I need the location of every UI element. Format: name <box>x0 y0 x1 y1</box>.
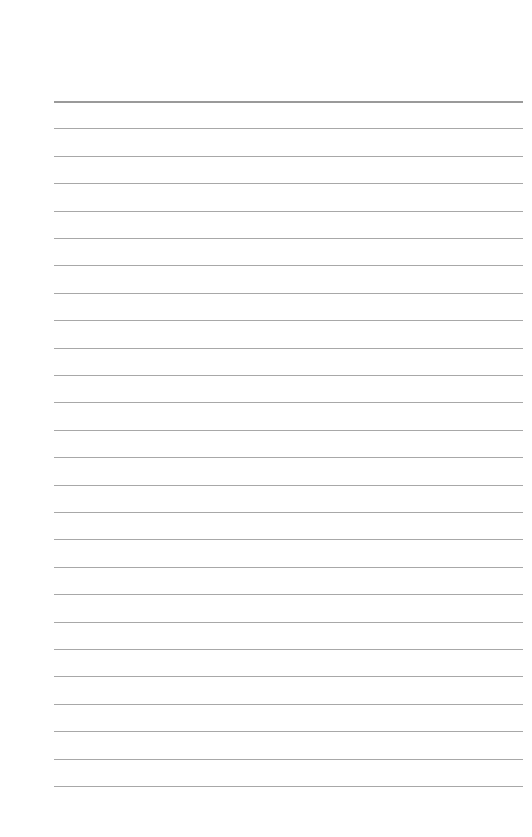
ruled-line <box>54 238 523 239</box>
ruled-line <box>54 457 523 458</box>
ruled-line <box>54 704 523 705</box>
ruled-line <box>54 265 523 266</box>
ruled-line <box>54 375 523 376</box>
ruled-line <box>54 430 523 431</box>
ruled-line <box>54 485 523 486</box>
ruled-line <box>54 512 523 513</box>
ruled-line <box>54 622 523 623</box>
ruled-line <box>54 293 523 294</box>
ruled-line <box>54 731 523 732</box>
ruled-line <box>54 539 523 540</box>
ruled-line <box>54 676 523 677</box>
lined-paper-page <box>0 0 532 837</box>
ruled-line <box>54 786 523 787</box>
ruled-line <box>54 128 523 129</box>
ruled-line <box>54 211 523 212</box>
ruled-line <box>54 101 523 103</box>
ruled-line <box>54 402 523 403</box>
ruled-line <box>54 759 523 760</box>
ruled-line <box>54 183 523 184</box>
ruled-line <box>54 594 523 595</box>
ruled-line <box>54 348 523 349</box>
ruled-line <box>54 320 523 321</box>
ruled-line <box>54 649 523 650</box>
ruled-line <box>54 567 523 568</box>
ruled-line <box>54 156 523 157</box>
